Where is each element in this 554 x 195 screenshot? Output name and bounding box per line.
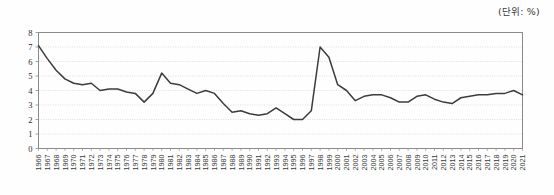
x-tick-label: 1967 (43, 155, 52, 171)
x-tick-label: 2011 (430, 155, 439, 170)
x-tick-label: 1990 (245, 155, 254, 171)
y-tick-label: 2 (28, 115, 32, 125)
x-tick-label: 2005 (377, 155, 386, 171)
x-tick-label: 2002 (351, 155, 360, 171)
x-tick-label: 2006 (386, 155, 395, 171)
x-tick-label: 2020 (509, 155, 518, 171)
x-tick-label: 1992 (263, 155, 272, 171)
x-tick-label: 1985 (201, 155, 210, 171)
y-tick-label: 0 (28, 144, 32, 154)
y-tick-label: 1 (28, 129, 32, 139)
y-axis-ticks: 012345678 (28, 28, 38, 154)
x-tick-label: 1982 (175, 155, 184, 171)
x-tick-label: 1989 (237, 155, 246, 171)
x-tick-label: 2008 (404, 155, 413, 171)
x-tick-label: 2012 (439, 155, 448, 171)
line-chart: 012345678 196619671968196919701971197219… (0, 0, 554, 195)
x-tick-label: 1972 (87, 155, 96, 171)
y-tick-label: 3 (28, 100, 32, 110)
data-series-line (39, 46, 523, 120)
x-tick-label: 2009 (413, 155, 422, 171)
x-tick-label: 1999 (325, 155, 334, 171)
x-tick-label: 1974 (105, 155, 114, 171)
x-tick-label: 1969 (61, 155, 70, 171)
x-tick-label: 1971 (78, 155, 87, 171)
x-tick-label: 1987 (219, 155, 228, 171)
chart-svg: 012345678 196619671968196919701971197219… (0, 0, 554, 195)
x-tick-label: 1973 (96, 155, 105, 171)
x-tick-label: 1995 (289, 155, 298, 171)
x-tick-label: 2018 (492, 155, 501, 171)
x-tick-label: 2013 (448, 155, 457, 171)
x-tick-label: 1968 (52, 155, 61, 171)
y-tick-label: 8 (28, 28, 32, 38)
x-tick-label: 1991 (254, 155, 263, 171)
gridlines (39, 33, 523, 135)
y-tick-label: 7 (28, 42, 32, 52)
x-tick-label: 2000 (333, 155, 342, 171)
x-tick-label: 1976 (122, 155, 131, 171)
x-tick-label: 2021 (518, 155, 527, 171)
chart-page: (단위: %) 012345678 1966196719681969197019… (0, 0, 554, 195)
x-tick-label: 2003 (360, 155, 369, 171)
x-tick-label: 2004 (369, 155, 378, 171)
x-tick-label: 2010 (421, 155, 430, 171)
x-tick-label: 1994 (281, 155, 290, 171)
x-axis-ticks: 1966196719681969197019711972197319741975… (34, 149, 527, 171)
x-tick-label: 1975 (113, 155, 122, 171)
x-tick-label: 1988 (228, 155, 237, 171)
y-tick-label: 4 (28, 86, 33, 96)
x-tick-label: 2001 (342, 155, 351, 171)
y-tick-label: 6 (28, 57, 32, 67)
x-tick-label: 1996 (298, 155, 307, 171)
x-tick-label: 2007 (395, 155, 404, 171)
x-tick-label: 1984 (193, 155, 202, 171)
x-tick-label: 1997 (307, 155, 316, 171)
x-tick-label: 1980 (157, 155, 166, 171)
x-tick-label: 1998 (316, 155, 325, 171)
x-tick-label: 1966 (34, 155, 43, 171)
x-tick-label: 1977 (131, 155, 140, 171)
x-tick-label: 2015 (465, 155, 474, 171)
x-tick-label: 2017 (483, 155, 492, 171)
x-tick-label: 2019 (501, 155, 510, 171)
x-tick-label: 2014 (457, 155, 466, 171)
x-tick-label: 1981 (166, 155, 175, 171)
x-tick-label: 2016 (474, 155, 483, 171)
x-tick-label: 1979 (149, 155, 158, 171)
x-tick-label: 1983 (184, 155, 193, 171)
x-tick-label: 1978 (140, 155, 149, 171)
y-tick-label: 5 (28, 71, 32, 81)
x-tick-label: 1986 (210, 155, 219, 171)
x-tick-label: 1993 (272, 155, 281, 171)
x-tick-label: 1970 (69, 155, 78, 171)
